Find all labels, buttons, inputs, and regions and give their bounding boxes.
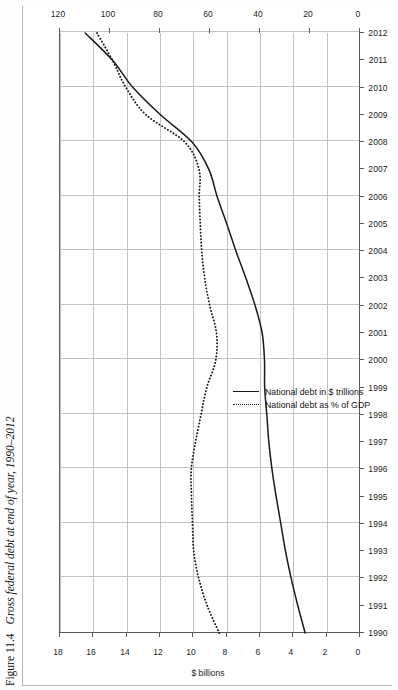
gridline-horizontal <box>327 33 328 632</box>
y-axis-tick-label: 18 <box>47 647 69 657</box>
y-axis-tick-label: 12 <box>147 647 169 657</box>
gridline-horizontal <box>93 33 94 632</box>
gridline-vertical <box>60 195 359 196</box>
x-axis-tick <box>360 359 364 360</box>
y-axis-tick <box>359 633 360 637</box>
x-axis-tick <box>360 523 364 524</box>
secondary-axis-tick <box>309 28 310 33</box>
secondary-axis-tick-label: 40 <box>245 9 271 19</box>
gridline-horizontal <box>293 33 294 632</box>
x-axis-tick <box>360 250 364 251</box>
x-axis-tick <box>360 605 364 606</box>
secondary-axis-tick-label: 80 <box>145 9 171 19</box>
x-axis-tick-label: 2006 <box>365 192 391 202</box>
y-axis-tick-label: 8 <box>214 647 236 657</box>
secondary-axis-tick-label: 20 <box>295 9 321 19</box>
x-axis-tick-label: 2007 <box>365 164 391 174</box>
secondary-axis-tick <box>109 28 110 33</box>
x-axis-tick-label: 2009 <box>365 110 391 120</box>
gridline-horizontal <box>260 33 261 632</box>
y-axis-tick-label: 0 <box>347 647 369 657</box>
x-axis-tick-label: 2008 <box>365 137 391 147</box>
x-axis-tick <box>360 32 364 33</box>
legend-swatch-dotted-icon <box>233 400 259 410</box>
legend-item-1: National debt as % of GDP <box>233 398 370 411</box>
gridline-vertical <box>60 304 359 305</box>
gridline-vertical <box>60 576 359 577</box>
x-axis-tick <box>360 305 364 306</box>
figure-frame: 0246810121416180204060801001201990199119… <box>22 6 392 686</box>
x-axis-tick-label: 2011 <box>365 55 391 65</box>
gridline-vertical <box>60 413 359 414</box>
x-axis-tick-label: 1990 <box>365 628 391 638</box>
gridline-vertical <box>60 467 359 468</box>
x-axis-tick-label: 2012 <box>365 28 391 38</box>
gridline-horizontal <box>160 33 161 632</box>
figure-caption: Figure 11.4Gross federal debt at end of … <box>4 417 16 686</box>
x-axis-tick <box>360 87 364 88</box>
y-axis-title: $ billions <box>178 668 238 678</box>
figure-caption-text: Gross federal debt at end of year, 1990–… <box>4 417 16 625</box>
x-axis-tick-label: 1998 <box>365 410 391 420</box>
secondary-axis-tick <box>59 28 60 33</box>
x-axis-tick-label: 1992 <box>365 573 391 583</box>
x-axis-tick <box>360 332 364 333</box>
y-axis-tick <box>126 633 127 637</box>
x-axis-tick-label: 2001 <box>365 328 391 338</box>
legend-label-1: National debt as % of GDP <box>265 400 370 410</box>
x-axis-tick-label: 2010 <box>365 83 391 93</box>
figure-number: Figure 11.4 <box>4 633 16 686</box>
y-axis-tick <box>192 633 193 637</box>
y-axis-tick <box>159 633 160 637</box>
x-axis-tick-label: 2003 <box>365 273 391 283</box>
x-axis-tick <box>360 632 364 633</box>
rotated-figure-canvas: Figure 11.4Gross federal debt at end of … <box>0 0 398 690</box>
x-axis-tick <box>360 441 364 442</box>
x-axis-tick <box>360 550 364 551</box>
gridline-vertical <box>60 86 359 87</box>
y-axis-tick-label: 10 <box>180 647 202 657</box>
y-axis-tick <box>226 633 227 637</box>
x-axis-tick <box>360 277 364 278</box>
x-axis-tick-label: 2004 <box>365 246 391 256</box>
gridline-vertical <box>60 140 359 141</box>
x-axis-tick <box>360 196 364 197</box>
x-axis-tick-label: 1993 <box>365 546 391 556</box>
secondary-axis-tick <box>159 28 160 33</box>
x-axis-tick-label: 1995 <box>365 492 391 502</box>
y-axis-tick <box>326 633 327 637</box>
gridline-horizontal <box>60 33 61 632</box>
secondary-axis-tick-label: 60 <box>195 9 221 19</box>
gridline-vertical <box>60 249 359 250</box>
secondary-axis-tick-label: 120 <box>45 9 71 19</box>
x-axis-tick <box>360 141 364 142</box>
x-axis-tick <box>360 59 364 60</box>
secondary-axis-tick-label: 100 <box>95 9 121 19</box>
secondary-axis-tick <box>209 28 210 33</box>
x-axis-tick <box>360 496 364 497</box>
secondary-axis-tick <box>259 28 260 33</box>
y-axis-tick <box>259 633 260 637</box>
y-axis-tick <box>292 633 293 637</box>
y-axis-tick-label: 4 <box>280 647 302 657</box>
x-axis-tick-label: 1996 <box>365 464 391 474</box>
gridline-vertical <box>60 358 359 359</box>
gridline-vertical <box>60 522 359 523</box>
legend-label-0: National debt in $ trillions <box>265 387 363 397</box>
y-axis-tick <box>92 633 93 637</box>
x-axis-tick <box>360 468 364 469</box>
chart-legend: National debt in $ trillions National de… <box>233 385 370 411</box>
legend-item-0: National debt in $ trillions <box>233 385 370 398</box>
y-axis-tick-label: 2 <box>314 647 336 657</box>
x-axis-tick-label: 1997 <box>365 437 391 447</box>
gridline-horizontal <box>227 33 228 632</box>
x-axis-tick <box>360 168 364 169</box>
y-axis-tick <box>59 633 60 637</box>
legend-swatch-solid-icon <box>233 387 259 397</box>
x-axis-tick <box>360 223 364 224</box>
gridline-horizontal <box>193 33 194 632</box>
figure-page: Figure 11.4Gross federal debt at end of … <box>0 0 398 690</box>
x-axis-tick-label: 2005 <box>365 219 391 229</box>
x-axis-tick <box>360 577 364 578</box>
gridline-horizontal <box>127 33 128 632</box>
